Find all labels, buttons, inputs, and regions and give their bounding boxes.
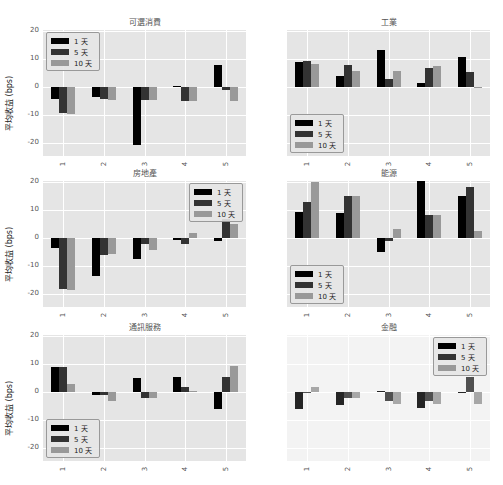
bar-1d <box>377 391 385 392</box>
legend-label: 5 天 <box>461 352 475 362</box>
legend-entry: 1 天 <box>438 340 482 351</box>
bar-10d <box>67 384 75 392</box>
bar-1d <box>51 367 59 392</box>
x-tick-label: 5 <box>222 465 230 473</box>
chart-title: 房地產 <box>43 167 246 178</box>
legend-swatch <box>194 211 212 217</box>
grid-line-v <box>389 181 390 307</box>
bar-5d <box>385 392 393 400</box>
bar-1d <box>214 65 222 87</box>
x-tick-label: 1 <box>303 311 311 319</box>
y-tick-label: -10 <box>21 110 39 118</box>
x-tick-label: 1 <box>59 465 67 473</box>
legend-entry: 5 天 <box>51 46 95 57</box>
grid-line-v <box>226 335 227 461</box>
legend-swatch <box>295 293 313 299</box>
legend-label: 1 天 <box>318 269 332 279</box>
bar-10d <box>311 387 319 393</box>
bar-10d <box>352 71 360 88</box>
bar-1d <box>133 87 141 144</box>
y-tick-label: 20 <box>21 26 39 34</box>
legend-entry: 1 天 <box>51 422 95 433</box>
x-tick-label: 3 <box>385 465 393 473</box>
chart-title: 通訊服務 <box>43 321 246 332</box>
legend-label: 5 天 <box>74 434 88 444</box>
y-tick-label: -20 <box>21 443 39 451</box>
legend-label: 1 天 <box>74 423 88 433</box>
bar-1d <box>173 86 181 87</box>
bar-5d <box>425 68 433 88</box>
grid-line-v <box>185 181 186 307</box>
bar-1d <box>458 196 466 238</box>
bar-1d <box>92 392 100 395</box>
grid-line-v <box>429 181 430 307</box>
bar-5d <box>222 377 230 392</box>
grid-line-v <box>185 335 186 461</box>
bar-5d <box>344 196 352 238</box>
bar-1d <box>417 83 425 87</box>
bar-10d <box>230 87 238 101</box>
bar-1d <box>377 50 385 88</box>
bar-5d <box>385 79 393 87</box>
bar-10d <box>311 182 319 238</box>
bar-10d <box>393 71 401 88</box>
y-tick-label: 10 <box>21 205 39 213</box>
chart-title: 金融 <box>287 321 490 332</box>
x-tick-label: 3 <box>141 465 149 473</box>
legend-swatch <box>194 189 212 195</box>
legend-label: 1 天 <box>217 187 231 197</box>
bar-1d <box>133 238 141 259</box>
x-tick-label: 2 <box>100 465 108 473</box>
bar-1d <box>92 238 100 276</box>
legend-swatch <box>51 38 69 44</box>
legend-entry: 1 天 <box>295 117 339 128</box>
bar-1d <box>295 62 303 87</box>
bar-1d <box>417 392 425 407</box>
bar-5d <box>59 238 67 288</box>
grid-line-v <box>145 181 146 307</box>
y-axis-label: 平均收益 (bps) <box>3 76 14 131</box>
legend-entry: 1 天 <box>194 186 238 197</box>
bar-1d <box>214 392 222 409</box>
y-tick-label: 10 <box>21 359 39 367</box>
bar-5d <box>344 392 352 398</box>
bar-10d <box>474 87 482 88</box>
legend-entry: 10 天 <box>295 290 339 301</box>
y-axis-label: 平均收益 (bps) <box>3 227 14 282</box>
bar-1d <box>336 213 344 238</box>
y-tick-label: 0 <box>21 233 39 241</box>
legend-label: 10 天 <box>318 140 336 150</box>
bar-5d <box>425 392 433 400</box>
y-axis-label: 平均收益 (bps) <box>3 381 14 436</box>
x-tick-label: 4 <box>181 465 189 473</box>
bar-5d <box>100 87 108 98</box>
grid-line-v <box>389 30 390 156</box>
legend-entry: 5 天 <box>194 197 238 208</box>
x-tick-label: 3 <box>141 311 149 319</box>
bar-10d <box>67 87 75 114</box>
bar-10d <box>352 196 360 238</box>
bar-1d <box>214 238 222 241</box>
bar-5d <box>344 65 352 87</box>
bar-5d <box>181 387 189 393</box>
x-tick-label: 1 <box>59 311 67 319</box>
y-tick-label: 20 <box>21 331 39 339</box>
chart-title: 能源 <box>287 167 490 178</box>
legend-swatch <box>438 343 456 349</box>
x-tick-label: 4 <box>425 465 433 473</box>
legend-label: 5 天 <box>217 198 231 208</box>
y-tick-label: -10 <box>21 261 39 269</box>
bar-1d <box>51 238 59 248</box>
bar-1d <box>336 392 344 405</box>
legend-entry: 5 天 <box>295 128 339 139</box>
legend-swatch <box>51 436 69 442</box>
legend-entry: 10 天 <box>438 362 482 373</box>
legend-swatch <box>295 271 313 277</box>
bar-5d <box>141 238 149 244</box>
grid-line-v <box>470 30 471 156</box>
bar-1d <box>458 392 466 393</box>
bar-1d <box>458 57 466 88</box>
bar-10d <box>352 392 360 398</box>
legend: 1 天5 天10 天 <box>46 419 100 458</box>
grid-line-v <box>307 335 308 461</box>
